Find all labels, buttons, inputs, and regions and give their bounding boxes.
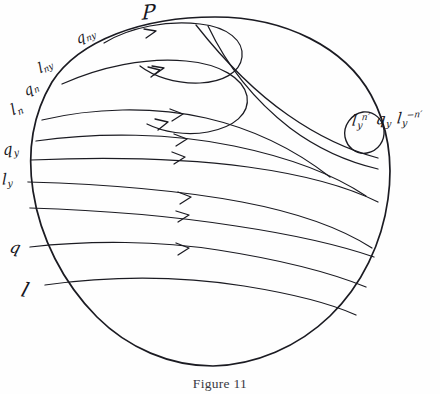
figure-drawing xyxy=(0,0,440,394)
flow-line-3c xyxy=(208,26,378,169)
disk-boundary xyxy=(31,17,390,366)
arrowhead-5 xyxy=(172,152,185,164)
flow-line-4 xyxy=(36,135,366,196)
flow-line-3 xyxy=(42,110,330,177)
boundary-label-q: q xyxy=(9,240,21,257)
arrowhead-7 xyxy=(176,211,189,222)
apex-label-P: P xyxy=(141,1,156,22)
flow-line-9 xyxy=(45,278,356,315)
arrowhead-1a xyxy=(144,29,156,38)
boundary-label-l-y: ly xyxy=(1,171,13,188)
arrowhead-4 xyxy=(174,134,187,146)
flow-line-3b xyxy=(196,25,378,158)
figure-caption: Figure 11 xyxy=(0,376,440,392)
figure-11-canvas: P qny lny qn ln qy ly q l lyn′ qy ly−n′ … xyxy=(0,0,440,394)
flow-line-7 xyxy=(30,208,374,257)
boundary-label-q-y: qy xyxy=(2,141,20,160)
flow-line-1 xyxy=(104,23,242,83)
flow-line-6 xyxy=(28,182,372,248)
flow-line-2 xyxy=(62,60,247,133)
arrowhead-3 xyxy=(170,109,183,121)
